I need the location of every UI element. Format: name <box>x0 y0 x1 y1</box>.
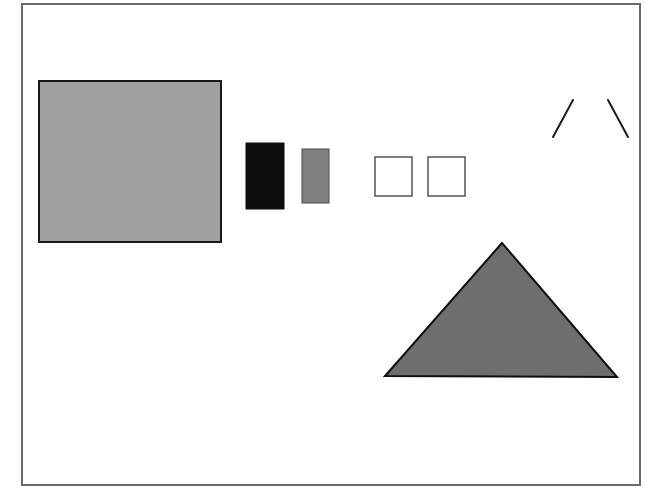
large-gray-square <box>39 81 221 242</box>
white-square-2 <box>428 157 465 196</box>
black-rectangle <box>246 143 284 209</box>
slanted-line-left <box>553 100 573 137</box>
shapes-canvas <box>0 0 645 494</box>
white-square-1 <box>375 157 412 196</box>
small-gray-rectangle <box>302 149 329 203</box>
gray-triangle <box>385 243 617 377</box>
slanted-line-right <box>608 100 628 137</box>
